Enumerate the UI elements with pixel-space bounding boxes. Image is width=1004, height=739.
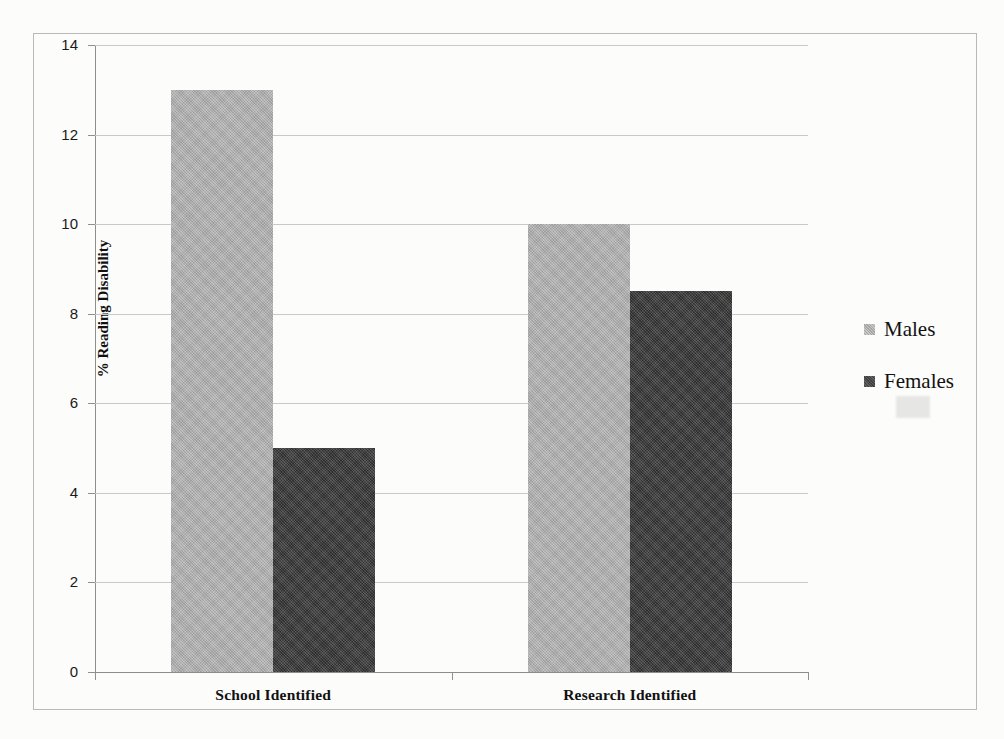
y-tick-label-14: 14 <box>44 36 78 53</box>
x-axis-tick-0 <box>95 672 96 680</box>
y-tick-10 <box>88 224 95 225</box>
y-tick-label-12: 12 <box>44 126 78 143</box>
bar-females-0[interactable] <box>273 448 375 672</box>
y-tick-8 <box>88 314 95 315</box>
category-label-0: School Identified <box>95 686 452 704</box>
category-label-1: Research Identified <box>452 686 809 704</box>
y-tick-label-8: 8 <box>44 305 78 322</box>
bar-males-1[interactable] <box>528 224 630 672</box>
legend-item-males[interactable]: Males <box>864 318 974 340</box>
legend-item-females[interactable]: Females <box>864 370 974 392</box>
x-axis-tick-1 <box>452 672 453 680</box>
y-tick-0 <box>88 672 95 673</box>
legend-swatch-females-icon <box>864 376 875 387</box>
y-tick-label-0: 0 <box>44 663 78 680</box>
bar-females-1[interactable] <box>630 291 732 672</box>
x-axis-tick-2 <box>808 672 809 680</box>
y-tick-label-10: 10 <box>44 215 78 232</box>
legend-label-females: Females <box>884 369 954 394</box>
bar-males-0[interactable] <box>171 90 273 672</box>
y-tick-label-2: 2 <box>44 573 78 590</box>
legend-label-males: Males <box>884 317 935 342</box>
scanned-page: % Reading Disability 14121086420 School … <box>0 0 1004 739</box>
scan-artifact <box>896 396 930 418</box>
legend-swatch-males-icon <box>864 324 875 335</box>
y-tick-14 <box>88 45 95 46</box>
y-tick-2 <box>88 582 95 583</box>
gridline-14 <box>95 45 808 46</box>
y-tick-6 <box>88 403 95 404</box>
y-tick-label-4: 4 <box>44 484 78 501</box>
y-tick-4 <box>88 493 95 494</box>
y-tick-label-6: 6 <box>44 394 78 411</box>
y-tick-12 <box>88 135 95 136</box>
plot-area <box>95 45 808 672</box>
